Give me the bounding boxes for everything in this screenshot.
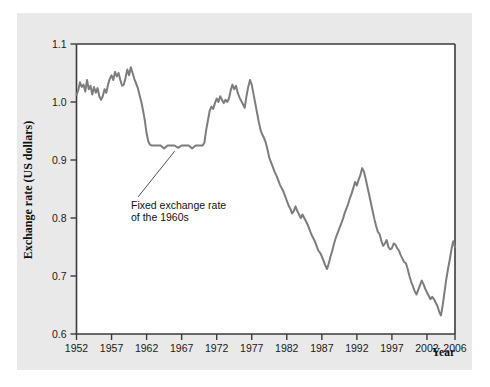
chart-plot-area: 0.60.70.80.91.01.1 195219571962196719721… bbox=[0, 0, 490, 387]
y-axis-tick-labels: 0.60.70.80.91.01.1 bbox=[52, 38, 67, 340]
y-axis-ticks bbox=[71, 44, 77, 334]
x-tick-label: 1972 bbox=[205, 342, 229, 354]
x-axis-ticks bbox=[77, 334, 456, 340]
x-axis-tick-labels: 1952195719621967197219771982198719921997… bbox=[65, 342, 467, 354]
x-tick-label: 1992 bbox=[345, 342, 369, 354]
y-tick-label: 0.6 bbox=[52, 328, 67, 340]
plot-background bbox=[77, 44, 456, 334]
y-axis-title: Exchange rate (US dollars) bbox=[21, 121, 35, 259]
y-tick-label: 0.7 bbox=[52, 270, 67, 282]
y-tick-label: 1.1 bbox=[52, 38, 67, 50]
x-tick-label: 1997 bbox=[380, 342, 404, 354]
exchange-rate-line-chart: 0.60.70.80.91.01.1 195219571962196719721… bbox=[0, 0, 490, 387]
x-tick-label: 1977 bbox=[240, 342, 264, 354]
x-axis-title: Year bbox=[432, 346, 455, 358]
annotation-line-2: of the 1960s bbox=[131, 211, 189, 223]
y-tick-label: 0.9 bbox=[52, 154, 67, 166]
x-tick-label: 1987 bbox=[310, 342, 334, 354]
y-tick-label: 1.0 bbox=[52, 96, 67, 108]
x-tick-label: 1982 bbox=[275, 342, 299, 354]
figure-container: 0.60.70.80.91.01.1 195219571962196719721… bbox=[0, 0, 490, 387]
x-tick-label: 1957 bbox=[100, 342, 124, 354]
annotation-line-1: Fixed exchange rate bbox=[131, 199, 226, 211]
y-tick-label: 0.8 bbox=[52, 212, 67, 224]
x-tick-label: 1967 bbox=[170, 342, 194, 354]
x-tick-label: 1952 bbox=[65, 342, 89, 354]
x-tick-label: 1962 bbox=[135, 342, 159, 354]
